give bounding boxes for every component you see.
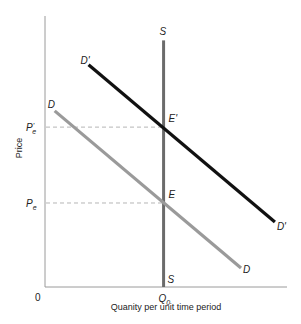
demand-shifted-label-end: D'	[277, 221, 287, 232]
supply-label-top: S	[160, 26, 167, 37]
y-axis-title: Price	[14, 138, 24, 159]
series-line-demand	[55, 111, 241, 268]
chart: SSD'D'DDE'EP'ePeQ0 0 Quanity per unit ti…	[0, 0, 301, 324]
demand-label-start: D	[48, 99, 55, 110]
supply-label-bottom: S	[168, 274, 175, 285]
equilibrium-label-e-prime: E'	[169, 113, 179, 124]
labels: SSD'D'DDE'EP'ePeQ0	[26, 26, 287, 306]
series-lines	[55, 40, 275, 287]
x-axis-title: Quanity per unit time period	[111, 302, 222, 312]
origin-label: 0	[35, 292, 41, 303]
series-line-demand-shifted	[89, 65, 275, 222]
equilibrium-label-e: E	[169, 189, 176, 200]
demand-shifted-label-start: D'	[81, 55, 91, 66]
demand-label-end: D	[243, 264, 250, 275]
y-tick-label-1: Pe	[26, 198, 37, 211]
y-tick-label-0: P'e	[26, 121, 36, 135]
reference-lines	[46, 127, 164, 203]
